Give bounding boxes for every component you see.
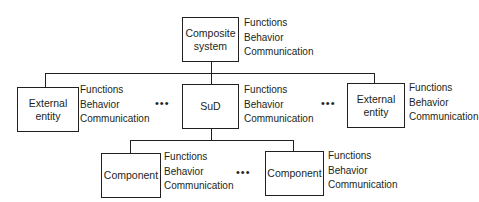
connector-left-entity	[45, 73, 46, 87]
box-label-line: entity	[357, 106, 396, 119]
box-label-line: entity	[29, 110, 68, 123]
attribute-functions: Functions	[409, 81, 478, 96]
external-entity-left-attributes: Functions Behavior Communication	[80, 83, 149, 127]
attribute-communication: Communication	[80, 112, 149, 127]
box-label-line: Composite	[185, 27, 235, 40]
attribute-communication: Communication	[244, 45, 313, 60]
attribute-behavior: Behavior	[164, 165, 233, 180]
attribute-communication: Communication	[328, 178, 397, 193]
box-label-line: Component	[267, 167, 321, 180]
attribute-functions: Functions	[244, 16, 313, 31]
external-entity-left-box: External entity	[17, 87, 79, 132]
attribute-communication: Communication	[164, 179, 233, 194]
external-entity-right-box: External entity	[347, 83, 405, 128]
component-left-box: Component	[101, 153, 161, 198]
attribute-functions: Functions	[328, 149, 397, 164]
connector-left-component	[130, 140, 131, 153]
component-left-attributes: Functions Behavior Communication	[164, 150, 233, 194]
ellipsis-components: •••	[236, 166, 251, 178]
sud-attributes: Functions Behavior Communication	[244, 83, 313, 127]
external-entity-right-attributes: Functions Behavior Communication	[409, 81, 478, 125]
sud-box: SuD	[182, 84, 239, 129]
box-label-line: Component	[104, 169, 158, 182]
box-label-line: External	[357, 93, 396, 106]
attribute-behavior: Behavior	[409, 96, 478, 111]
attribute-functions: Functions	[244, 83, 313, 98]
attribute-communication: Communication	[244, 112, 313, 127]
box-label-line: system	[185, 40, 235, 53]
attribute-behavior: Behavior	[244, 31, 313, 46]
ellipsis-right: •••	[321, 97, 336, 109]
box-label-line: External	[29, 97, 68, 110]
attribute-behavior: Behavior	[328, 164, 397, 179]
connector-level3-bus	[130, 140, 294, 141]
connector-sud	[211, 73, 212, 84]
composite-system-attributes: Functions Behavior Communication	[244, 16, 313, 60]
connector-right-component	[293, 140, 294, 151]
connector-level2-bus	[45, 73, 375, 74]
component-right-box: Component	[265, 151, 324, 196]
connector-right-entity	[374, 73, 375, 83]
box-label-line: SuD	[200, 100, 220, 113]
attribute-functions: Functions	[80, 83, 149, 98]
composite-system-box: Composite system	[182, 17, 239, 62]
attribute-behavior: Behavior	[244, 98, 313, 113]
attribute-behavior: Behavior	[80, 98, 149, 113]
attribute-communication: Communication	[409, 110, 478, 125]
attribute-functions: Functions	[164, 150, 233, 165]
ellipsis-left: •••	[155, 97, 170, 109]
component-right-attributes: Functions Behavior Communication	[328, 149, 397, 193]
